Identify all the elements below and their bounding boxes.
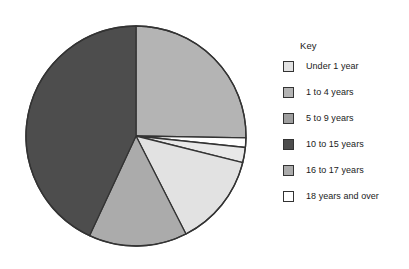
pie-slices-group: [26, 26, 246, 246]
legend-item: 5 to 9 years: [283, 112, 409, 125]
legend-item: 10 to 15 years: [283, 138, 409, 151]
legend-swatch: [283, 191, 294, 202]
legend-item-label: 10 to 15 years: [306, 139, 364, 150]
legend-item-label: 5 to 9 years: [306, 113, 354, 124]
legend-items: Under 1 year1 to 4 years5 to 9 years10 t…: [283, 60, 409, 203]
pie-chart-area: [18, 18, 254, 254]
legend-item-label: 1 to 4 years: [306, 87, 354, 98]
legend-swatch: [283, 87, 294, 98]
legend-swatch: [283, 113, 294, 124]
legend-swatch: [283, 165, 294, 176]
pie-slice: [136, 26, 246, 138]
legend-item: 16 to 17 years: [283, 164, 409, 177]
pie-chart-svg: [18, 18, 254, 254]
legend-item-label: 16 to 17 years: [306, 165, 364, 176]
legend-item: 18 years and over: [283, 190, 409, 203]
legend-swatch: [283, 139, 294, 150]
legend-item: 1 to 4 years: [283, 86, 409, 99]
legend-item-label: Under 1 year: [306, 61, 359, 72]
legend-title: Key: [300, 40, 409, 51]
legend-item-label: 18 years and over: [306, 191, 379, 202]
legend-item: Under 1 year: [283, 60, 409, 73]
chart-legend: Key Under 1 year1 to 4 years5 to 9 years…: [283, 40, 409, 216]
legend-swatch: [283, 61, 294, 72]
pie-chart-figure: Key Under 1 year1 to 4 years5 to 9 years…: [0, 0, 409, 269]
